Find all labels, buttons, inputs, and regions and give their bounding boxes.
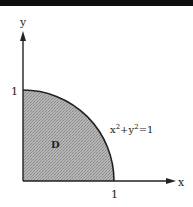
y-tick-label: 1	[11, 85, 18, 98]
region-label: D	[51, 139, 60, 150]
x-tick-label: 1	[111, 188, 118, 201]
region-d-shading	[23, 90, 114, 181]
x-axis-arrow-icon	[166, 178, 176, 184]
x-axis-label: x	[178, 176, 185, 189]
quarter-disk-diagram: y 1 D 1 x x2+y2=1	[0, 0, 193, 207]
y-axis-arrow-icon	[20, 31, 26, 41]
y-axis-label: y	[19, 16, 27, 29]
equation-rhs: =1	[139, 124, 154, 135]
equation-plus: +	[120, 124, 128, 135]
circle-equation: x2+y2=1	[110, 123, 153, 135]
